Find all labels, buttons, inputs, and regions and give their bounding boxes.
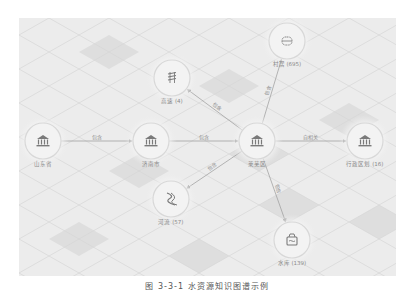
node-label: 高速 (4)	[161, 97, 183, 105]
node-circle[interactable]	[239, 123, 275, 159]
node-label: 村居 (695)	[273, 60, 302, 68]
node-circle[interactable]	[153, 181, 189, 217]
node-label: 莱芜区	[248, 160, 266, 168]
edge-label: 自相关	[303, 134, 318, 141]
figure-caption: 图 3-3-1 水资源知识图谱示例	[0, 280, 414, 291]
edge-label: 包含	[92, 134, 102, 141]
diamond-grid	[19, 18, 396, 276]
node-circle[interactable]	[274, 222, 310, 258]
graph-svg: 包含包含自相关包含包含包含包含 山东省济南市莱芜区行政区划 (16)村居 (69…	[19, 18, 396, 276]
node-label: 河流 (57)	[158, 218, 183, 226]
node-circle[interactable]	[347, 123, 383, 159]
node-circle[interactable]	[154, 60, 190, 96]
node-circle[interactable]	[133, 123, 169, 159]
node-label: 行政区划 (16)	[346, 160, 383, 168]
node-label: 水库 (139)	[278, 259, 307, 267]
node-xingzheng[interactable]: 行政区划 (16)	[339, 115, 391, 168]
node-label: 山东省	[34, 160, 52, 168]
edge-label: 包含	[199, 134, 209, 141]
node-circle[interactable]	[25, 123, 61, 159]
node-label: 济南市	[142, 160, 160, 168]
knowledge-graph-canvas: 包含包含自相关包含包含包含包含 山东省济南市莱芜区行政区划 (16)村居 (69…	[19, 18, 396, 276]
